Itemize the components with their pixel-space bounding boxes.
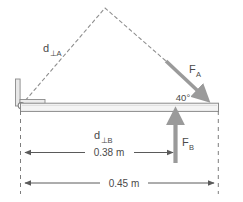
force-a-label: F bbox=[189, 63, 196, 75]
diagram-canvas: 40° F A d ⊥A F B 0.38 m bbox=[0, 0, 243, 202]
d-perp-a-subscript: ⊥A bbox=[50, 49, 62, 58]
d-perp-a-construction-line bbox=[22, 8, 106, 105]
inner-dimension-label: 0.38 m bbox=[94, 147, 125, 158]
angle-label: 40° bbox=[176, 92, 191, 103]
force-b-label: F bbox=[182, 136, 189, 148]
d-perp-b-label-group: d ⊥B bbox=[94, 129, 113, 145]
physics-beam-diagram: 40° F A d ⊥A F B 0.38 m bbox=[0, 0, 243, 202]
force-a-label-group: F A bbox=[189, 63, 201, 79]
outer-dimension-group: 0.45 m bbox=[25, 178, 214, 189]
d-perp-b-label: d bbox=[94, 129, 100, 141]
force-a-extension-line bbox=[105, 8, 174, 68]
force-b-subscript: B bbox=[189, 143, 194, 152]
d-perp-b-subscript: ⊥B bbox=[101, 136, 113, 145]
construction-triangle bbox=[22, 8, 175, 105]
outer-dimension-label: 0.45 m bbox=[109, 178, 140, 189]
d-perp-a-label: d bbox=[43, 42, 49, 54]
force-b-label-group: F B bbox=[182, 136, 194, 152]
inner-dimension-group: 0.38 m bbox=[25, 147, 173, 158]
horizontal-beam bbox=[21, 103, 219, 111]
d-perp-a-label-group: d ⊥A bbox=[43, 42, 62, 58]
force-a-subscript: A bbox=[196, 70, 201, 79]
